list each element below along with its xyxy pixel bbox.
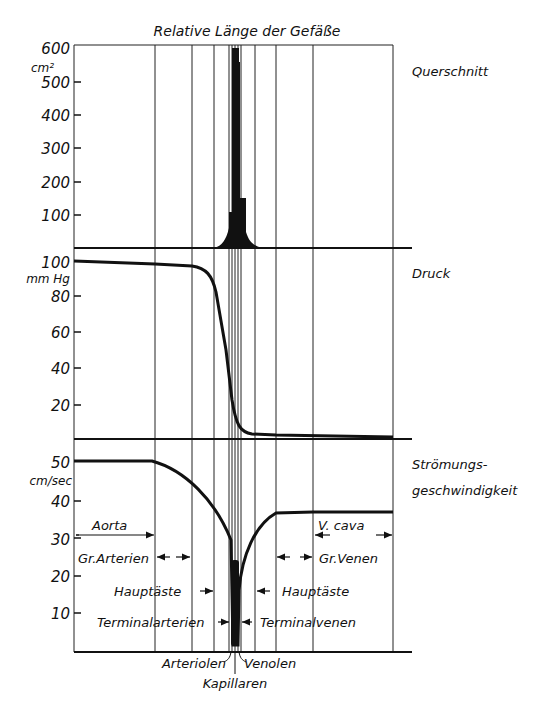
y-unit-cm2: cm² — [31, 61, 54, 75]
label-stroemungs: Strömungs- — [412, 457, 488, 472]
y-tick-60: 60 — [51, 324, 70, 342]
chart-title: Relative Länge der Gefäße — [154, 23, 341, 39]
y-tick-20: 20 — [51, 568, 70, 586]
segment-gr-venen: Gr.Venen — [319, 551, 378, 566]
panel-querschnitt: 600 cm² 500 400 300 200 100 Querschnitt — [31, 40, 489, 248]
capillary-dip — [231, 560, 239, 646]
y-tick-500: 500 — [41, 74, 70, 92]
segment-terminalarterien: Terminalarterien — [97, 615, 204, 630]
y-tick-80: 80 — [51, 288, 70, 306]
segment-aorta: Aorta — [91, 518, 127, 533]
segment-hauptaeste-arterien: Hauptäste — [114, 584, 181, 599]
y-tick-200: 200 — [41, 174, 70, 192]
y-tick-50: 50 — [51, 454, 70, 472]
y-unit-cmsec: cm/sec — [29, 474, 72, 488]
y-tick-400: 400 — [41, 107, 70, 125]
y-tick-40: 40 — [51, 493, 70, 511]
y-unit-mmhg: mm Hg — [26, 272, 70, 286]
label-druck: Druck — [412, 266, 451, 281]
y-tick-100: 100 — [41, 207, 70, 225]
y-tick-20: 20 — [51, 397, 70, 415]
segment-v-cava: V. cava — [318, 518, 364, 533]
y-tick-300: 300 — [41, 140, 70, 158]
pressure-curve — [74, 261, 393, 437]
label-querschnitt: Querschnitt — [412, 64, 489, 79]
y-tick-30: 30 — [51, 531, 70, 549]
y-tick-100: 100 — [41, 254, 70, 272]
y-tick-600: 600 — [41, 40, 70, 58]
label-arteriolen: Arteriolen — [161, 656, 226, 671]
label-geschwindigkeit: geschwindigkeit — [412, 483, 518, 498]
label-kapillaren: Kapillaren — [203, 676, 268, 691]
y-tick-40: 40 — [51, 360, 70, 378]
panel-stroemung: 50 cm/sec 40 30 20 10 Strömungs- geschwi… — [29, 454, 518, 691]
y-tick-10: 10 — [51, 605, 70, 623]
segment-hauptaeste-venen: Hauptäste — [282, 584, 349, 599]
segment-gr-arterien: Gr.Arterien — [78, 551, 149, 566]
circulation-chart: Relative Länge der Gefäße 600 cm² — [0, 0, 538, 705]
segment-terminalvenen: Terminalvenen — [260, 615, 356, 630]
label-venolen: Venolen — [244, 656, 296, 671]
